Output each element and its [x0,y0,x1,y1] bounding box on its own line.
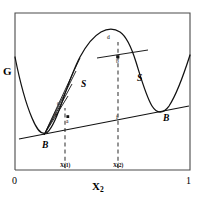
x-axis-max-label: 1 [186,176,191,186]
dome-chord-line [97,50,148,58]
point-label-e: e [55,112,57,118]
point-label-d: d [107,35,110,41]
x-axis-label-main: X [92,180,100,192]
region-label-b-left: B [42,141,48,151]
tick-label-x2: X(2) [113,163,123,169]
x-axis-label-subscript: 2 [100,185,104,194]
region-label-s-left: S [81,80,86,90]
y-axis-label: G [3,66,12,77]
point-label-b: b [116,59,119,65]
point-label-a: a [66,119,68,125]
region-label-b-right: B [163,114,169,124]
x-axis-label: X2 [92,181,104,193]
region-label-s-right: S [137,74,142,84]
tick-label-x1: X(1) [60,163,70,169]
point-label-c: c [57,101,59,107]
figure-container: G X2 0 1 X(1) X(2) B S S B c e a d b f [0,0,204,202]
point-label-f: f [116,115,118,121]
free-energy-plot [0,0,204,202]
x-axis-min-label: 0 [12,176,17,186]
